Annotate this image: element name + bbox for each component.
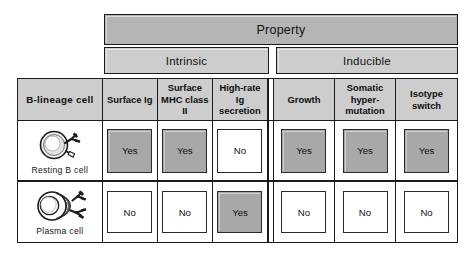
column-header-label: B-lineage cell (24, 94, 95, 106)
cell-plasma-growth: No (274, 182, 335, 242)
property-header-label: Property (257, 23, 306, 37)
column-header-surface-ig: Surface Ig (103, 79, 158, 121)
value-chip: Yes (343, 129, 388, 173)
table-header-row: B-lineage cell Surface Ig Surface MHC cl… (18, 79, 457, 121)
value-text: Yes (122, 145, 138, 156)
column-header-high-rate-ig-secretion: High-rate Ig secretion (213, 79, 268, 121)
group-header-inducible: Inducible (276, 47, 458, 74)
cell-plasma-isotype-switch: No (396, 182, 457, 242)
value-chip: Yes (107, 129, 152, 173)
row-header-resting-b-cell: Resting B cell (18, 121, 103, 181)
value-text: Yes (296, 145, 312, 156)
cell-resting-high-rate-ig: No (213, 121, 268, 181)
plasma-cell-icon (31, 188, 89, 224)
value-chip: Yes (162, 129, 207, 173)
column-header-growth: Growth (274, 79, 335, 121)
column-header-label: Surface Ig (105, 94, 154, 106)
cell-resting-isotype-switch: Yes (396, 121, 457, 181)
group-header-intrinsic: Intrinsic (104, 47, 269, 74)
value-chip: No (404, 191, 449, 233)
column-header-isotype-switch: Isotype switch (396, 79, 457, 121)
column-header-b-lineage-cell: B-lineage cell (18, 79, 103, 121)
cell-resting-surface-mhc-ii: Yes (158, 121, 213, 181)
figure-root: Property Intrinsic Inducible B-lineage c… (0, 0, 468, 257)
value-text: No (179, 207, 191, 218)
value-text: Yes (232, 207, 248, 218)
value-chip: No (343, 191, 388, 233)
table-row: Resting B cell Yes Yes No (18, 121, 457, 182)
resting-b-cell-icon (32, 127, 88, 163)
value-chip: Yes (281, 129, 326, 173)
value-text: No (298, 207, 310, 218)
column-header-surface-mhc-ii: Surface MHC class II (158, 79, 213, 121)
cell-plasma-somatic-hypermutation: No (335, 182, 396, 242)
value-chip: No (217, 129, 262, 173)
cell-resting-surface-ig: Yes (103, 121, 158, 181)
row-header-plasma-cell: Plasma cell (18, 182, 103, 242)
column-header-label: Growth (286, 94, 323, 106)
value-text: Yes (357, 145, 373, 156)
value-text: Yes (419, 145, 435, 156)
column-header-label: Isotype switch (408, 88, 445, 111)
properties-table: B-lineage cell Surface Ig Surface MHC cl… (17, 78, 458, 243)
column-header-label: Surface MHC class II (158, 82, 212, 117)
value-chip: Yes (217, 191, 262, 233)
cell-plasma-surface-ig: No (103, 182, 158, 242)
column-header-label: High-rate Ig secretion (213, 82, 267, 117)
row-header-label: Plasma cell (36, 226, 83, 236)
property-header-bar: Property (104, 14, 458, 45)
value-text: No (234, 145, 246, 156)
row-header-label: Resting B cell (31, 165, 88, 175)
value-chip: No (107, 191, 152, 233)
column-header-label: Somatic hyper- mutation (343, 82, 387, 117)
cell-plasma-surface-mhc-ii: No (158, 182, 213, 242)
cell-resting-growth: Yes (274, 121, 335, 181)
cell-plasma-high-rate-ig: Yes (213, 182, 268, 242)
value-text: No (124, 207, 136, 218)
table-row: Plasma cell No No Yes (18, 182, 457, 242)
value-chip: No (281, 191, 326, 233)
value-text: Yes (177, 145, 193, 156)
value-text: No (420, 207, 432, 218)
group-header-intrinsic-label: Intrinsic (166, 55, 207, 67)
value-chip: Yes (404, 129, 449, 173)
value-chip: No (162, 191, 207, 233)
cell-resting-somatic-hypermutation: Yes (335, 121, 396, 181)
value-text: No (359, 207, 371, 218)
group-header-inducible-label: Inducible (343, 55, 391, 67)
column-header-somatic-hypermutation: Somatic hyper- mutation (335, 79, 396, 121)
